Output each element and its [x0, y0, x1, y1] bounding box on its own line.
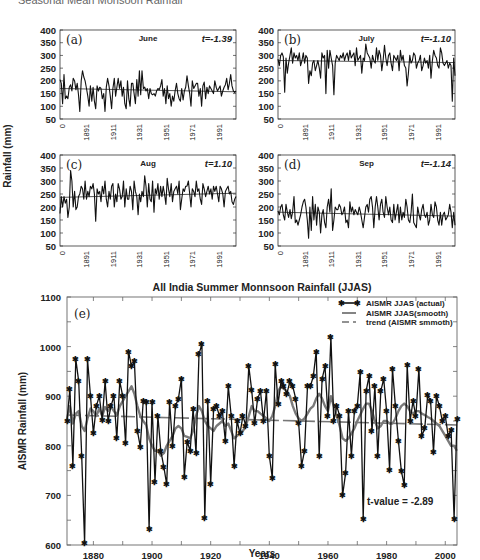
star-marker: ✱ [357, 368, 364, 377]
y-tick-label: 300 [40, 176, 56, 187]
x-tick-label: 1971 [188, 251, 197, 268]
x-tick-label: 1951 [162, 124, 171, 141]
star-marker: ✱ [122, 439, 129, 448]
star-marker: ✱ [119, 392, 126, 401]
star-marker: ✱ [193, 449, 200, 458]
chart-panel-aismr: 6007008009001000110018801900192019401960… [40, 292, 461, 560]
star-marker: ✱ [102, 377, 109, 386]
y-tick-label: 300 [258, 50, 274, 61]
star-marker: ✱ [201, 514, 208, 523]
x-tick-label: 1951 [162, 251, 171, 268]
x-tick-label: 1911 [109, 124, 118, 140]
chart-e-legend: ✱ ✱ AISMR JJAS (actual) AISMR JJAS(smoot… [338, 299, 454, 327]
x-tick-label: 1991 [215, 251, 224, 268]
x-tick-label: 1971 [407, 251, 416, 268]
panel-letter: (d) [284, 158, 301, 172]
x-tick-label: 1980 [376, 550, 397, 560]
y-tick-label: 200 [40, 202, 56, 213]
trend-line [278, 212, 455, 216]
star-marker: ✱ [157, 447, 164, 456]
x-tick-label: 1911 [327, 124, 336, 140]
star-marker: ✱ [125, 348, 132, 357]
star-marker: ✱ [131, 357, 138, 366]
x-tick-label: 1991 [434, 124, 443, 141]
star-marker: ✱ [207, 480, 214, 489]
star-marker: ✱ [442, 412, 449, 421]
star-marker: ✱ [451, 515, 458, 524]
star-marker: ✱ [149, 398, 156, 407]
x-tick-label: 1960 [317, 550, 338, 560]
star-marker: ✱ [146, 525, 153, 534]
x-tick-label: 1951 [380, 124, 389, 141]
star-marker: ✱ [410, 397, 417, 406]
star-marker: ✱ [195, 350, 202, 359]
y-tick-label: 700 [45, 490, 61, 501]
star-marker: ✱ [404, 361, 411, 370]
x-tick-label: 1971 [188, 124, 197, 141]
y-tick-label: 250 [258, 189, 274, 200]
y-tick-label: 100 [40, 101, 56, 112]
star-marker: ✱ [298, 462, 305, 471]
star-marker: ✱ [72, 355, 79, 364]
y-tick-label: 150 [40, 215, 56, 226]
svg-text:✱: ✱ [338, 299, 345, 308]
star-marker: ✱ [163, 480, 170, 489]
y-tick-label: 400 [258, 25, 274, 36]
star-marker: ✱ [175, 395, 182, 404]
star-marker: ✱ [313, 348, 320, 357]
star-marker: ✱ [377, 387, 384, 396]
x-tick-label: 1891 [82, 124, 91, 141]
star-marker: ✱ [380, 375, 387, 384]
panel-letter: (b) [284, 33, 301, 47]
star-marker: ✱ [374, 452, 381, 461]
star-marker: ✱ [181, 473, 188, 482]
y-tick-label: 250 [258, 63, 274, 74]
x-tick-label: 1931 [135, 124, 144, 141]
star-marker: ✱ [134, 427, 141, 436]
chart-e-x-axis-label: Years [249, 548, 276, 559]
x-tick-label: 1991 [215, 124, 224, 141]
star-marker: ✱ [342, 469, 349, 478]
star-marker: ✱ [107, 402, 114, 411]
star-marker: ✱ [275, 400, 282, 409]
star-marker: ✱ [260, 417, 267, 426]
star-marker: ✱ [272, 360, 279, 369]
star-marker: ✱ [295, 419, 302, 428]
x-tick-label: 1951 [380, 251, 389, 268]
star-marker: ✱ [81, 539, 88, 548]
y-tick-label: 150 [258, 88, 274, 99]
star-marker: ✱ [389, 365, 396, 374]
y-tick-label: 300 [258, 176, 274, 187]
t-value-label: t=-1.39 [202, 33, 233, 44]
chart-panel-september: 5010015020025030035040001891191119311951… [258, 150, 455, 268]
t-value-label: t=-1.10 [421, 33, 452, 44]
y-tick-label: 100 [258, 228, 274, 239]
t-value-label: t=1.10 [205, 158, 233, 169]
month-label: Aug [140, 159, 156, 168]
star-marker: ✱ [105, 417, 112, 426]
y-tick-label: 800 [45, 441, 61, 452]
t-value-label: t=-1.14 [421, 158, 452, 169]
star-marker: ✱ [436, 402, 443, 411]
star-marker: ✱ [116, 377, 123, 386]
star-marker: ✱ [69, 462, 76, 471]
star-marker: ✱ [383, 407, 390, 416]
star-marker: ✱ [169, 442, 176, 451]
x-tick-label: 1900 [141, 550, 162, 560]
y-tick-label: 300 [40, 50, 56, 61]
star-marker: ✱ [310, 372, 317, 381]
chart-e-t-value: t-value = -2.89 [367, 496, 434, 507]
chart-e-y-axis-label: AISMR Rainfall (mm) [17, 372, 28, 470]
star-marker: ✱ [110, 392, 117, 401]
star-marker: ✱ [222, 437, 229, 446]
star-marker: ✱ [251, 419, 258, 428]
x-tick-label: 1891 [82, 251, 91, 268]
x-tick-label: 1971 [407, 124, 416, 141]
star-marker: ✱ [219, 407, 226, 416]
svg-text:✱: ✱ [354, 299, 361, 308]
star-marker: ✱ [266, 452, 273, 461]
y-tick-label: 150 [258, 215, 274, 226]
y-tick-label: 200 [40, 75, 56, 86]
star-marker: ✱ [160, 463, 167, 472]
chart-panel-june: 5010015020025030035040001891191119311951… [40, 25, 236, 141]
